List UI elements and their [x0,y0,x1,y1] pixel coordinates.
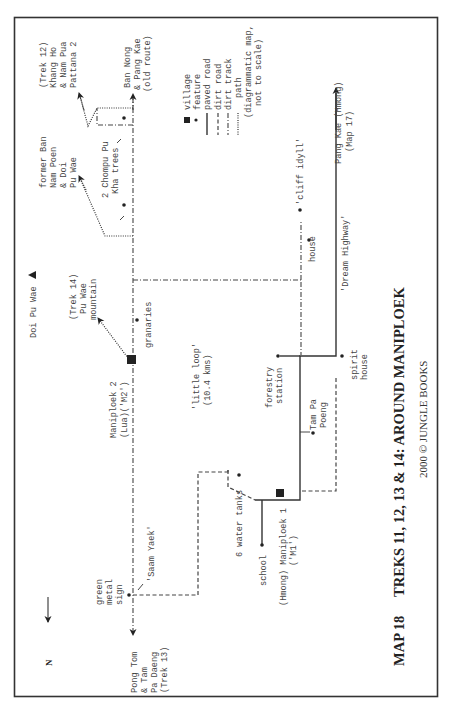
map-number: MAP 18 [391,616,407,666]
label-green-2: metal [105,579,115,605]
feature-tam-pa-poeng [311,431,315,435]
label-pangkae-2: (Map 17) [345,111,355,152]
label-forestry-1: forestry [265,367,275,408]
feature-granaries [135,318,139,322]
feature-cliff-idyll [298,208,302,212]
label-dream-highway: 'Dream Highway' [341,215,351,292]
label-formerban-4: Pu Wae [69,157,79,188]
label-trek12-4: Pattana 2 [69,42,79,88]
track-east-branch [133,280,301,355]
feature-water-tanks [237,473,241,477]
label-formerban-3: & Doi [59,162,69,188]
label-trek12-2: Khang Ho [49,47,59,88]
label-house: house [308,236,318,262]
feature-green-metal-sign [127,593,131,597]
label-tampa-1: Tam Pa [309,399,319,430]
legend-label-village: village [183,74,193,110]
village-maniploek-2 [127,355,136,364]
trek-map: (Trek 12) Khang Ho & Nam Pua Pattana 2 B… [0,0,449,713]
label-granaries: granaries [144,302,154,348]
label-doi-pu-wae: Doi Pu Wae [29,286,39,338]
chompu-pointer-1 [117,139,121,143]
label-spirit-2: house [360,354,370,380]
label-bannong-3: (old route) [143,35,153,92]
label-little-loop-2: (10.4 kms) [203,354,213,406]
label-maniploek1-1: (Hmong) Maniploek 1 [279,508,289,606]
chompu-pointer-2 [120,216,124,220]
label-pongtom-3: Pa Daeng [150,652,160,693]
label-cliff-idyll: 'cliff idyll' [296,138,306,205]
track-branch-top [97,108,133,125]
village-maniploek-1 [276,489,284,497]
legend-label-dirt-track: dirt track [224,58,234,110]
north-label: N [44,659,54,666]
feature-school [260,543,264,547]
label-trek12-3: & Nam Pua [59,42,69,88]
label-green-3: sign [115,584,125,605]
legend-label-path: path [234,77,244,98]
map-border [15,18,438,697]
label-formerban-2: Nam Poen [49,147,59,188]
saam-yaek-pointer [138,584,143,590]
label-trek14-1: (Trek 14) [69,274,79,320]
legend-note-2: not to scale) [254,39,264,106]
feature-forestry-station [276,354,280,358]
label-forestry-2: station [275,368,285,404]
label-water-tanks: 6 water tanks [235,490,245,557]
label-little-loop-1: 'little loop' [192,343,202,410]
label-green-1: green [95,579,105,605]
legend-label-feature: feature [193,74,203,110]
legend-note-1: (diagrammatic map, [244,25,254,118]
label-spirit-1: spirit [350,349,360,380]
map-title: TREKS 11, 12, 13 & 14: AROUND MANIPLOEK [391,287,407,597]
path-to-former-ban-arrow [79,176,86,190]
label-pongtom-1: Pong Tom [130,652,140,693]
label-formerban-1: former Ban [39,136,49,188]
label-maniploek2-2: (Lua)('M2') [120,381,130,438]
label-pangkae-1: Pang Kae (Hmong) [334,81,344,164]
copyright: 2000 © JUNGLE BOOKS [417,361,429,478]
label-bannong-2: & Pang Kae [133,38,143,90]
label-school: school [259,555,269,586]
label-trek12-1: (Trek 12) [39,42,49,88]
legend-label-paved-road: paved road [203,58,213,110]
label-pongtom-4: (Trek 13) [160,647,170,693]
label-bannong-1: Ban Nong [123,47,133,88]
feature-spirit-house [340,354,344,358]
label-maniploek2-1: Maniploek 2 [109,381,119,438]
label-trek14-3: mountain [89,279,99,320]
path-to-trek12 [80,96,133,126]
feature-chompu-tree-2 [122,203,126,207]
label-saam-yaek: 'Saam Yaek' [147,525,157,582]
legend [184,113,238,135]
label-maniploek1-2: ('M1') [289,535,299,566]
legend-village-icon [184,117,190,123]
spirit-house-dirt-road [300,378,336,491]
legend-label-dirt-road: dirt road [214,64,224,110]
legend-feature-icon [194,118,197,121]
label-trek14-2: Pu Wae [79,283,89,314]
label-chompu-1: 2 Chompu Pu [101,141,111,198]
label-pongtom-2: & Tam [140,667,150,693]
feature-chompu-tree-1 [122,116,126,120]
label-chompu-2: Kha trees [111,148,121,194]
path-to-trek14 [98,318,131,362]
label-tampa-2: Poeng [319,402,329,428]
mountain-peak-icon [28,271,36,279]
